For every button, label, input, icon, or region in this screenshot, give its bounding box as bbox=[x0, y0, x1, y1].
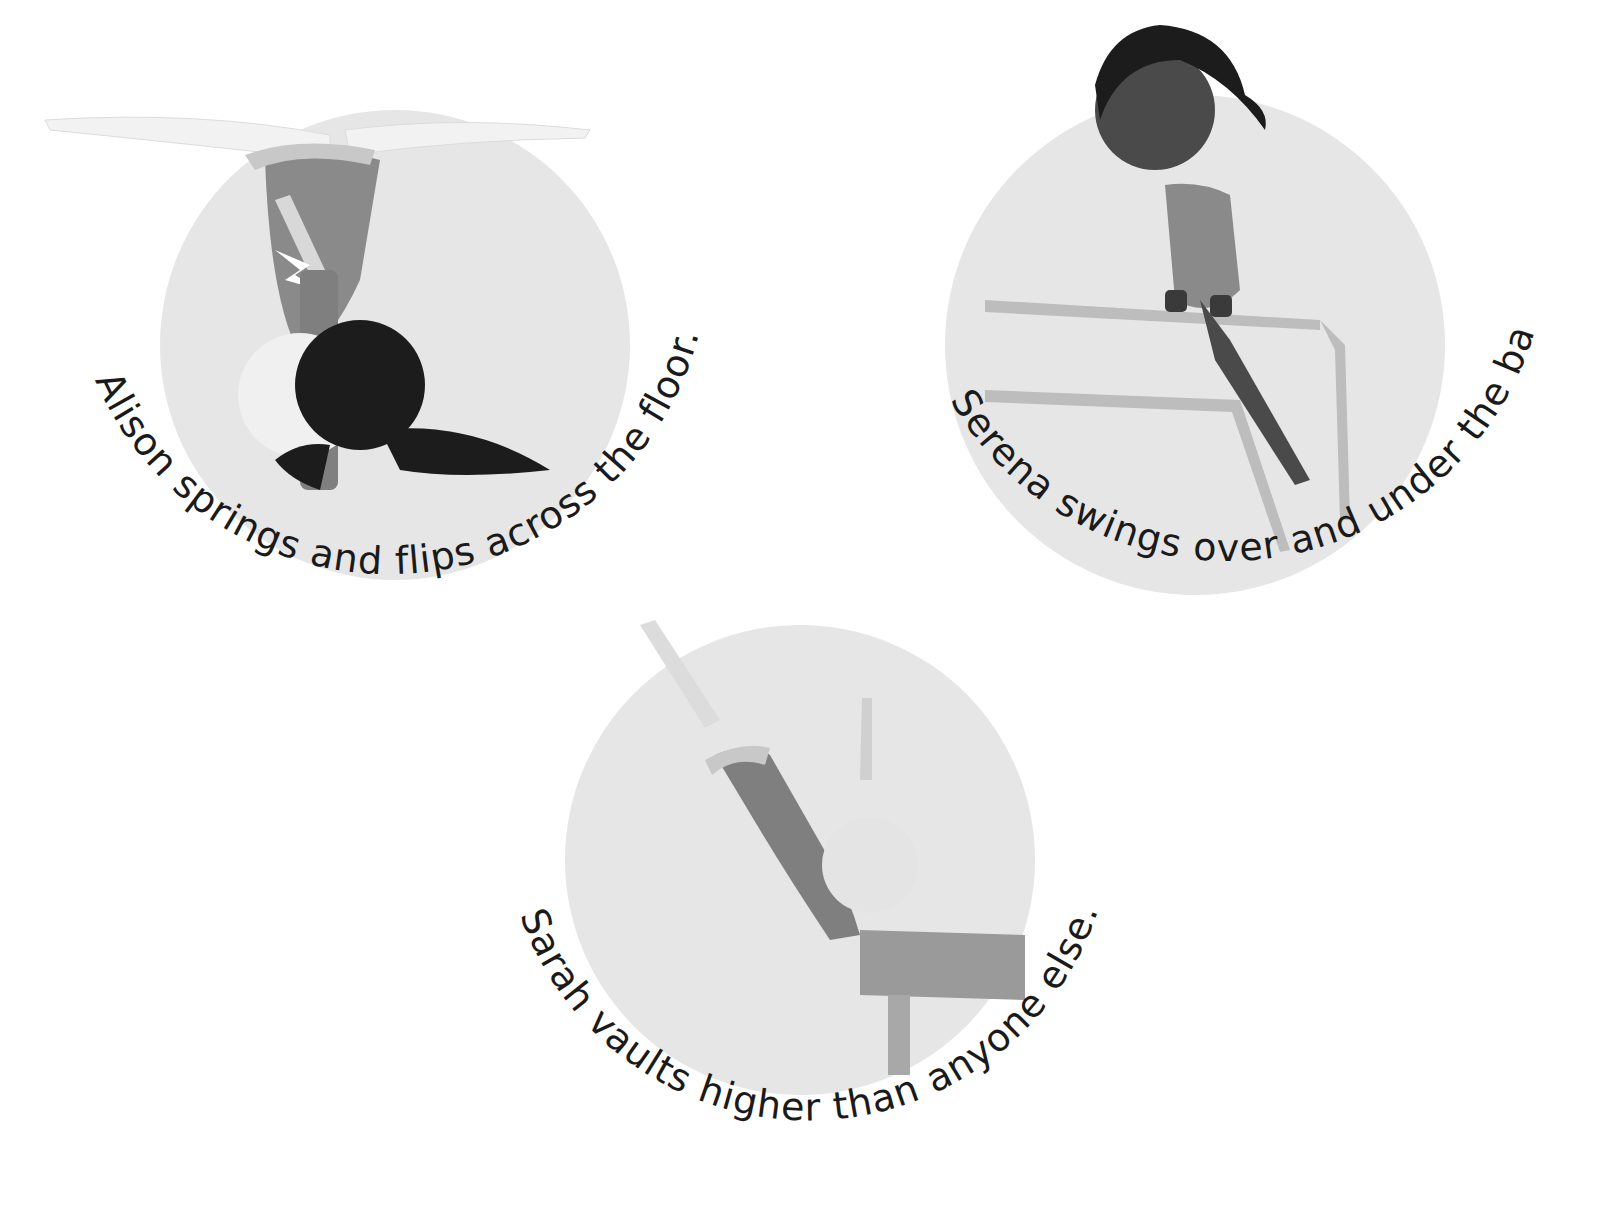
caption-serena-text: Serena swings over and under the bars. bbox=[0, 0, 1544, 570]
caption-serena: Serena swings over and under the bars. bbox=[0, 0, 1544, 570]
caption-alison: Alison springs and flips across the floo… bbox=[87, 324, 708, 584]
caption-sarah: Sarah vaults higher than anyone else. bbox=[511, 898, 1107, 1130]
caption-sarah-text: Sarah vaults higher than anyone else. bbox=[511, 898, 1107, 1130]
caption-alison-text: Alison springs and flips across the floo… bbox=[87, 324, 708, 584]
vignette-alison: Alison springs and flips across the floo… bbox=[0, 0, 1615, 1229]
captions-layer: Alison springs and flips across the floo… bbox=[0, 0, 1615, 1229]
